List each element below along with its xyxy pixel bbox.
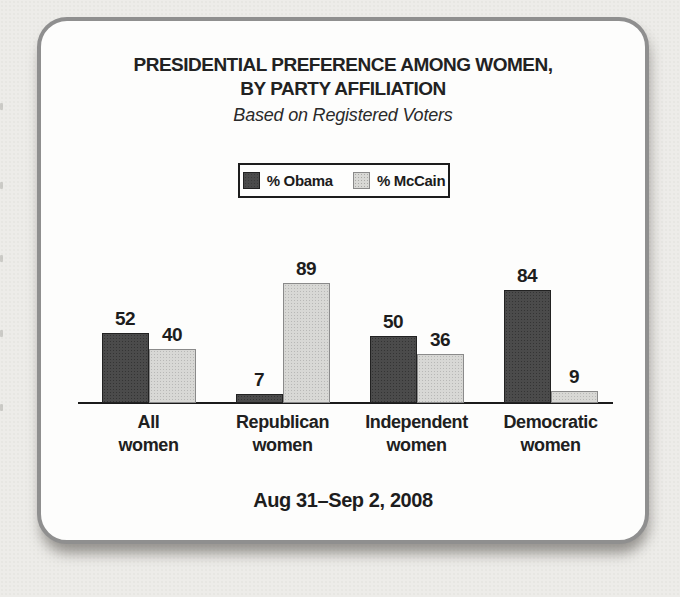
scan-artifact-mark [0, 404, 3, 411]
scanned-page: PRESIDENTIAL PREFERENCE AMONG WOMEN, BY … [0, 0, 680, 597]
mccain-color-swatch [353, 172, 370, 189]
chart-legend: % Obama % McCain [238, 163, 450, 198]
chart-title-line-1: PRESIDENTIAL PREFERENCE AMONG WOMEN, [37, 53, 649, 77]
legend-label-mccain: % McCain [377, 172, 445, 189]
legend-item-obama: % Obama [243, 172, 333, 189]
legend-item-mccain: % McCain [353, 172, 445, 189]
scan-artifact-mark [0, 255, 3, 262]
chart-subtitle: Based on Registered Voters [37, 103, 649, 127]
obama-color-swatch [243, 172, 260, 189]
scan-artifact-mark [0, 103, 3, 110]
chart-title-block: PRESIDENTIAL PREFERENCE AMONG WOMEN, BY … [37, 53, 649, 127]
poll-date: Aug 31–Sep 2, 2008 [37, 489, 649, 512]
scan-artifact-mark [0, 182, 3, 189]
scan-artifact-mark [0, 330, 3, 337]
chart-title-line-2: BY PARTY AFFILIATION [37, 77, 649, 101]
legend-label-obama: % Obama [267, 172, 333, 189]
